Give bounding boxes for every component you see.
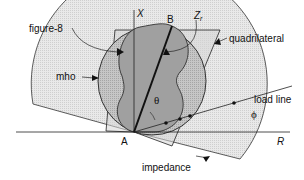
label-x-axis: X: [136, 8, 144, 19]
label-quadrilateral: quadrilateral: [229, 33, 284, 44]
label-load-line: load line: [254, 94, 292, 105]
label-point-a: A: [121, 136, 128, 147]
arrow-head-icon: [203, 156, 210, 162]
load-point: [188, 114, 192, 118]
label-figure8: figure-8: [29, 23, 63, 34]
label-r-axis: R: [277, 136, 284, 147]
label-theta: θ: [154, 94, 159, 106]
label-phi: ϕ: [251, 108, 257, 120]
label-mho: mho: [56, 71, 76, 82]
load-point: [164, 121, 168, 125]
label-point-b: B: [167, 14, 174, 25]
load-point: [232, 101, 236, 105]
relay-characteristic-diagram: figure-8 mho X B Zr quadrilateral θ load…: [0, 0, 304, 180]
label-impedance: impedance: [142, 162, 191, 173]
load-point: [178, 117, 182, 121]
